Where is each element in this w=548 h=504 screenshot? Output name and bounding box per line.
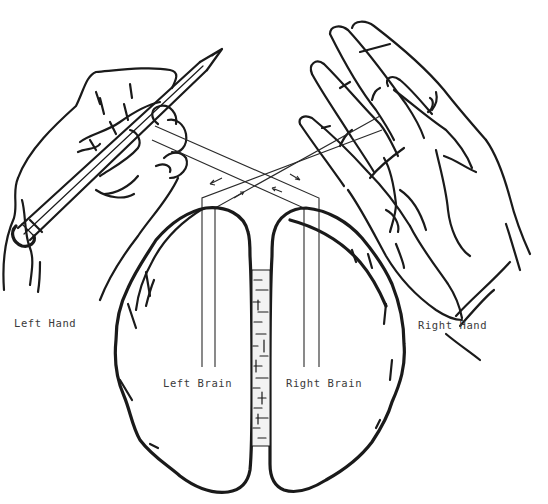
diagram-art: [0, 0, 548, 504]
pathway-right-to-left-inner: [215, 116, 380, 367]
left-hemisphere: [115, 208, 252, 493]
label-left-hand: Left Hand: [14, 318, 76, 329]
label-right-hand: Right Hand: [418, 320, 487, 331]
corpus-callosum: [252, 270, 270, 446]
label-left-brain: Left Brain: [163, 378, 232, 389]
pathway-left-to-right-outer: [155, 126, 319, 367]
label-right-brain: Right Brain: [286, 378, 362, 389]
left-hand-drawing: [3, 49, 222, 310]
right-hand-drawing: [290, 22, 530, 360]
brain-hands-diagram: Left Hand Right Hand Left Brain Right Br…: [0, 0, 548, 504]
pathway-left-to-right-inner: [152, 140, 304, 367]
